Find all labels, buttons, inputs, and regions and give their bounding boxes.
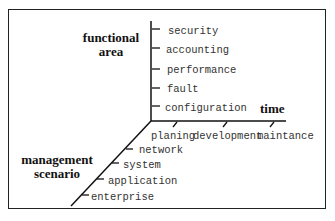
tick-accounting: accounting <box>166 44 229 56</box>
functional-area-label-line1: functional <box>83 30 140 45</box>
tick-planing: planing <box>151 130 195 142</box>
tick-development: development <box>193 130 262 142</box>
management-scenario-label-line1: management <box>21 152 93 167</box>
time-label: time <box>260 101 285 116</box>
three-axis-diagram: security accounting performance fault co… <box>0 0 335 221</box>
tick-maintance: maintance <box>257 130 314 142</box>
tick-network: network <box>139 144 183 156</box>
time-ticks <box>173 122 274 127</box>
tick-configuration: configuration <box>165 102 247 114</box>
management-scenario-label-line2: scenario <box>34 166 80 181</box>
tick-enterprise: enterprise <box>91 191 154 203</box>
tick-application: application <box>108 175 177 187</box>
tick-fault: fault <box>167 83 199 95</box>
tick-performance: performance <box>167 64 236 76</box>
tick-security: security <box>168 25 218 37</box>
functional-area-ticks <box>152 29 160 106</box>
tick-system: system <box>123 159 161 171</box>
functional-area-label-line2: area <box>99 44 124 59</box>
